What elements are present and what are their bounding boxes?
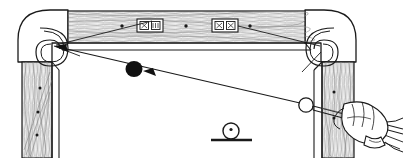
left-rail bbox=[22, 62, 59, 158]
rail-plate-right bbox=[212, 19, 238, 32]
symbol-center-dot bbox=[229, 128, 232, 131]
top-rail bbox=[62, 11, 315, 50]
object-ball bbox=[126, 61, 143, 77]
sight-dot bbox=[37, 111, 40, 114]
cue-ball bbox=[299, 98, 313, 112]
sight-dot bbox=[120, 24, 123, 27]
shot-line bbox=[58, 47, 300, 103]
sight-dot bbox=[248, 24, 251, 27]
ball-on-line-symbol bbox=[211, 123, 252, 140]
diagram-canvas bbox=[0, 0, 403, 158]
sight-dot bbox=[333, 91, 336, 94]
sight-dot bbox=[184, 24, 187, 27]
pool-diagram-figure: Pool table bank shot diagram cue ball ob… bbox=[0, 0, 403, 158]
rail-plate-left bbox=[137, 19, 163, 32]
sight-dot bbox=[39, 87, 42, 90]
sight-dot bbox=[36, 134, 39, 137]
